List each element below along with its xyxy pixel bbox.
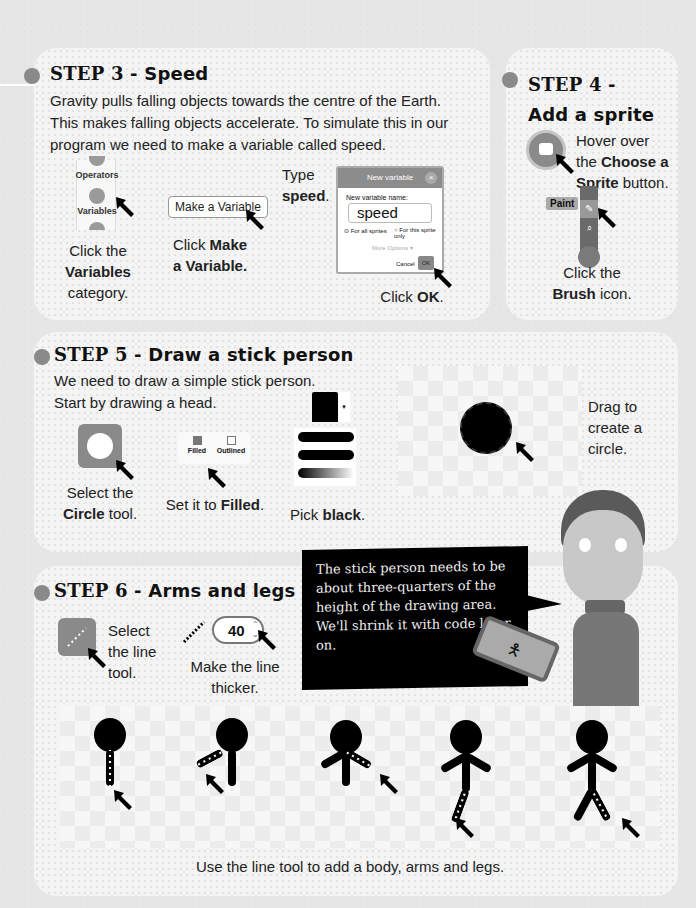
close-icon[interactable]: ×	[425, 172, 437, 184]
step6-bullet-icon	[34, 585, 50, 601]
caption-use-line-tool: Use the line tool to add a body, arms an…	[150, 856, 550, 877]
step5-body: We need to draw a simple stick person.St…	[54, 370, 354, 414]
divider	[0, 84, 34, 86]
filled-square-icon	[193, 436, 202, 445]
step3-title: STEP 3 - Speed	[50, 63, 208, 84]
character-face	[563, 510, 643, 606]
cursor-arrow-icon	[432, 266, 454, 288]
saturation-slider[interactable]	[298, 450, 354, 460]
radio-this-sprite[interactable]: ○ For this sprite only	[394, 227, 442, 239]
tablet-stick-figure-icon: 🯅	[503, 636, 526, 666]
category-operators[interactable]: Operators	[72, 170, 122, 180]
line-width-icon	[182, 620, 206, 644]
cursor-arrow-icon	[554, 152, 576, 174]
dropdown-icon[interactable]: ▼	[338, 392, 350, 422]
filled-option[interactable]: Filled	[182, 434, 212, 454]
step3-bullet-icon	[24, 68, 40, 84]
caption-circle-tool: Select theCircle tool.	[60, 482, 140, 524]
caption-drag-circle: Drag to create a circle.	[588, 396, 648, 459]
cursor-arrow-icon	[114, 458, 136, 480]
cat-sprite-icon	[539, 143, 553, 155]
step6-title: STEP 6 - Arms and legs	[54, 580, 295, 601]
category-strip: Operators Variables	[76, 160, 116, 230]
cursor-arrow-icon	[114, 195, 136, 217]
caption-line-tool: Select the line tool.	[108, 620, 174, 683]
cancel-button[interactable]: Cancel	[396, 261, 415, 267]
stick-head	[216, 718, 248, 752]
dialog-name-label: New variable name:	[346, 194, 408, 201]
dialog-header: New variable ×	[338, 168, 442, 188]
hue-slider[interactable]	[298, 432, 354, 442]
cursor-arrow-icon	[86, 646, 108, 668]
caption-ok: Click OK.	[372, 286, 452, 307]
radio-all-sprites[interactable]: ⊙ For all sprites	[344, 227, 387, 234]
stick-head	[94, 718, 126, 752]
caption-filled: Set it to Filled.	[160, 494, 270, 515]
caption-variables: Click theVariablescategory.	[58, 240, 138, 303]
cursor-arrow-icon	[112, 788, 134, 810]
caption-make-variable: Click Makea Variable.	[160, 234, 260, 276]
cursor-arrow-icon	[378, 772, 400, 794]
caption-type-speed: Typespeed.	[282, 164, 322, 206]
cursor-arrow-icon	[596, 206, 618, 228]
step3-body: Gravity pulls falling objects towards th…	[50, 90, 470, 156]
cursor-arrow-icon	[206, 466, 228, 488]
step4-title: STEP 4 -Add a sprite	[528, 70, 654, 130]
color-sliders	[294, 428, 356, 486]
character-eye-left	[579, 538, 591, 552]
character-illustration	[555, 488, 675, 708]
outlined-option[interactable]: Outlined	[214, 434, 248, 454]
caption-black: Pick black.	[290, 504, 370, 525]
step5-bullet-icon	[34, 349, 50, 365]
step5-title: STEP 5 - Draw a stick person	[54, 344, 354, 365]
drawn-circle	[460, 402, 512, 454]
stick-body	[106, 750, 114, 786]
cursor-arrow-icon	[256, 628, 278, 650]
color-picker-swatch[interactable]	[312, 392, 338, 422]
stick-figure-canvas	[60, 706, 660, 848]
caption-hover: Hover overthe Choose aSprite button.	[576, 130, 686, 193]
caption-line-thicker: Make the line thicker.	[190, 656, 280, 698]
paint-tooltip: Paint	[546, 197, 578, 210]
circle-icon	[87, 433, 113, 459]
new-variable-dialog: New variable × New variable name: speed …	[336, 166, 444, 274]
category-dot-variables[interactable]	[89, 188, 105, 204]
variable-name-input[interactable]: speed	[348, 203, 432, 223]
cursor-arrow-icon	[620, 816, 642, 838]
brightness-slider[interactable]	[298, 468, 354, 478]
cursor-arrow-icon	[454, 816, 476, 838]
step4-bullet-icon	[502, 72, 518, 88]
cursor-arrow-icon	[514, 440, 536, 462]
stick-head	[450, 720, 482, 754]
caption-brush: Click theBrush icon.	[552, 262, 632, 304]
fill-options: Filled Outlined	[178, 432, 250, 464]
stick-head	[330, 720, 362, 754]
cursor-arrow-icon	[244, 208, 266, 230]
cursor-arrow-icon	[204, 772, 226, 794]
character-eye-right	[615, 538, 627, 552]
stick-head	[576, 720, 608, 754]
category-dot-next	[89, 222, 105, 230]
category-dot-operators	[89, 156, 105, 166]
character-body	[573, 612, 639, 708]
more-options-link[interactable]: More Options ▾	[372, 244, 413, 251]
stick-body	[228, 750, 236, 786]
outlined-square-icon	[227, 436, 236, 445]
